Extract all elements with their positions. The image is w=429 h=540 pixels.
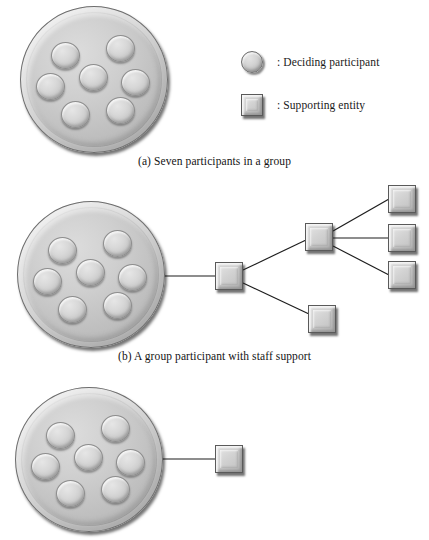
caption-panel-b: (b) A group participant with staff suppo… (0, 350, 429, 362)
participant-b-3 (33, 268, 62, 295)
participant-a-3 (36, 73, 65, 100)
participant-a-4 (79, 64, 108, 91)
legend-label-supporting-entity: : Supporting entity (277, 99, 365, 111)
participant-a-7 (106, 97, 135, 124)
participant-b-connected (118, 264, 147, 291)
participant-b-4 (76, 259, 105, 286)
participant-c-6 (56, 480, 85, 507)
caption-panel-a: (a) Seven participants in a group (0, 155, 429, 167)
legend-label-deciding-participant: : Deciding participant (277, 56, 379, 68)
participant-a-1 (51, 42, 80, 69)
participant-b-1 (48, 237, 77, 264)
edge-lead-to-hub (243, 240, 306, 270)
participant-c-connected (116, 449, 145, 476)
participant-b-6 (58, 296, 87, 323)
supporting-entity-square-icon-wrap (241, 94, 263, 116)
staff-hub-entity (305, 223, 333, 251)
single-support-entity (215, 445, 243, 473)
figure-container: : Deciding participant : Supporting enti… (0, 0, 429, 540)
participant-a-5 (121, 69, 150, 96)
participant-b-7 (103, 292, 132, 319)
participant-c-3 (31, 453, 60, 480)
participant-c-7 (101, 476, 130, 503)
participant-a-6 (61, 101, 90, 128)
staff-member-top (388, 185, 416, 213)
group-disc-a (20, 6, 168, 153)
deciding-participant-circle-icon (241, 51, 263, 73)
staff-member-lower (308, 305, 336, 333)
participant-a-2 (106, 35, 135, 62)
group-disc-c (15, 387, 163, 532)
legend-item-deciding-participant: : Deciding participant (241, 51, 379, 73)
participant-c-4 (74, 444, 103, 471)
staff-member-bottom (388, 261, 416, 289)
edge-lead-to-lower (243, 283, 309, 314)
supporting-entity-square-icon (241, 94, 263, 116)
staff-member-middle (388, 224, 416, 252)
participant-c-1 (46, 422, 75, 449)
legend-item-supporting-entity: : Supporting entity (241, 94, 365, 116)
participant-b-2 (103, 230, 132, 257)
staff-lead-entity (215, 262, 243, 290)
group-disc-b (17, 201, 165, 348)
participant-c-2 (101, 415, 130, 442)
edge-hub-to-top (333, 199, 389, 231)
edge-hub-to-bottom (333, 246, 389, 275)
